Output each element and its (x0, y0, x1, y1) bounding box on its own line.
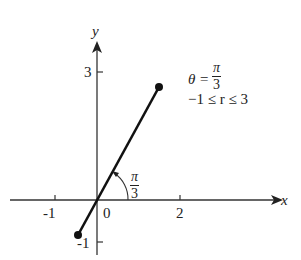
diagram-graphics (0, 0, 301, 260)
endpoint-r-3 (155, 83, 163, 91)
x-axis-label: x (281, 193, 288, 208)
polar-line-diagram: x y -1 0 2 3 -1 π 3 θ = π 3 −1 ≤ r ≤ 3 (0, 0, 301, 260)
x-tick-label-0: 0 (103, 206, 111, 221)
r-range-annotation: −1 ≤ r ≤ 3 (188, 92, 248, 107)
y-tick-label--1: -1 (77, 236, 90, 251)
angle-label-num: π (130, 170, 139, 186)
theta-fraction: π 3 (212, 61, 221, 92)
theta-equation-lhs: θ = (188, 72, 209, 87)
polar-line-segment (78, 87, 159, 235)
angle-label: π 3 (130, 170, 139, 201)
theta-fraction-den: 3 (212, 77, 221, 92)
theta-fraction-num: π (212, 61, 221, 77)
x-tick-label--1: -1 (43, 206, 56, 221)
angle-arc (114, 173, 128, 200)
y-tick-label-3: 3 (84, 65, 92, 80)
angle-label-den: 3 (130, 186, 139, 201)
y-axis-label: y (92, 24, 99, 39)
x-tick-label-2: 2 (176, 206, 184, 221)
